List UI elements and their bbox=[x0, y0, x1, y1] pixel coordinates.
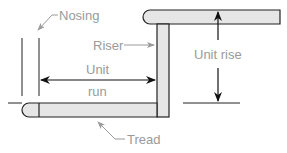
unit-run-label-line2: run bbox=[88, 84, 107, 99]
lower-tread bbox=[22, 103, 157, 117]
riser-label: Riser bbox=[93, 38, 124, 53]
nosing-leader bbox=[38, 15, 58, 30]
unit-run-label-line1: Unit bbox=[86, 62, 110, 77]
unit-rise-label: Unit rise bbox=[194, 47, 242, 62]
nosing-extension-lines bbox=[8, 38, 39, 103]
tread-label: Tread bbox=[127, 132, 160, 147]
stair-diagram: Nosing Riser Unit run Unit rise Tread bbox=[0, 0, 287, 153]
upper-tread bbox=[143, 10, 280, 24]
nosing-label: Nosing bbox=[59, 8, 99, 23]
tread-leader bbox=[98, 122, 125, 139]
riser-board bbox=[157, 24, 169, 117]
